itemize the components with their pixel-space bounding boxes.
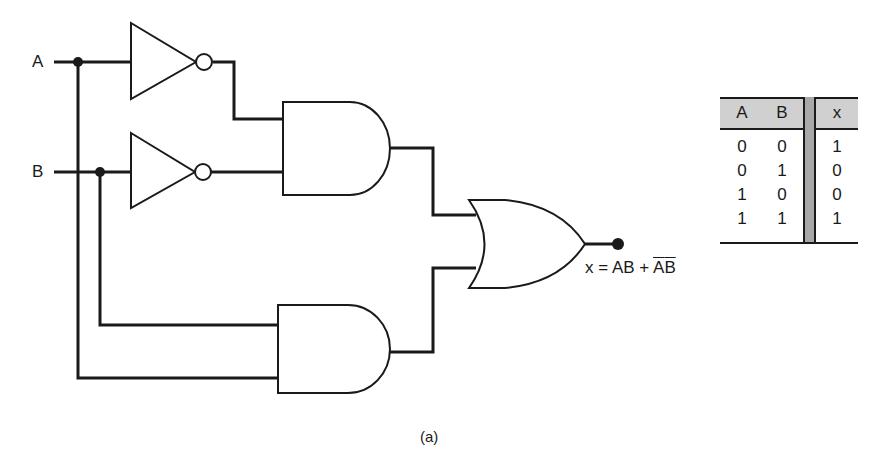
cell-r0-b: 0 [772, 137, 792, 157]
expression-b-bar: B [664, 258, 675, 277]
cell-r0-x: 1 [827, 137, 847, 157]
truth-table-bottom-rule [720, 242, 858, 244]
cell-r0-a: 0 [732, 137, 752, 157]
wire-not1-to-and1 [213, 62, 284, 119]
wire-b-to-and2 [100, 172, 279, 325]
or-gate [469, 200, 585, 288]
cell-r1-a: 0 [732, 161, 752, 181]
output-terminal-dot [612, 238, 624, 250]
expression-a-bar: A [653, 258, 664, 277]
figure-caption: (a) [420, 428, 438, 445]
logic-circuit [0, 0, 885, 466]
header-x: x [827, 103, 847, 123]
header-a: A [732, 103, 752, 123]
not-gate-2 [131, 133, 211, 208]
and-gate-1 [283, 102, 390, 195]
and-gate-2 [278, 305, 390, 393]
cell-r3-a: 1 [732, 209, 752, 229]
cell-r3-b: 1 [772, 209, 792, 229]
wire-a-to-and2 [78, 62, 279, 378]
expression-prefix: x = AB + [585, 258, 653, 277]
cell-r2-x: 0 [827, 185, 847, 205]
wire-and1-to-or [388, 148, 476, 215]
header-b: B [772, 103, 792, 123]
junction-dot-b [95, 167, 105, 177]
cell-r2-a: 1 [732, 185, 752, 205]
not-gate-1 [131, 23, 212, 99]
input-label-a: A [32, 52, 43, 72]
junction-dot-a [73, 57, 83, 67]
cell-r3-x: 1 [827, 209, 847, 229]
output-expression: x = AB + AB [585, 258, 676, 278]
cell-r1-x: 0 [827, 161, 847, 181]
truth-table-separator [803, 97, 816, 244]
cell-r1-b: 1 [772, 161, 792, 181]
input-label-b: B [32, 162, 43, 182]
cell-r2-b: 0 [772, 185, 792, 205]
wire-and2-to-or [389, 268, 476, 352]
